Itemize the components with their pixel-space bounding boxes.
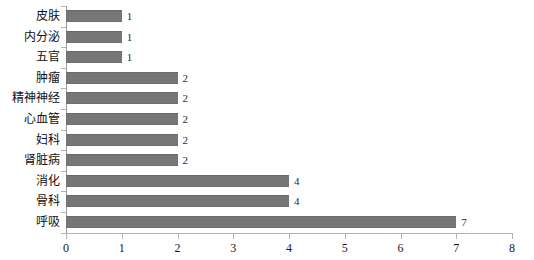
bar-value-label: 1 — [127, 28, 133, 46]
category-label: 心血管 — [0, 109, 60, 130]
bar-value-label: 2 — [183, 89, 189, 107]
bar-value-label: 4 — [294, 192, 300, 210]
category-label: 肾脏病 — [0, 150, 60, 171]
bar-value-label: 7 — [461, 213, 467, 231]
bar-row: 7 — [66, 212, 512, 233]
x-axis-tick — [178, 234, 179, 239]
bar-value-label: 2 — [183, 151, 189, 169]
bar-value-label: 2 — [183, 131, 189, 149]
bar — [66, 31, 122, 43]
bar — [66, 195, 289, 207]
bar-value-label: 1 — [127, 7, 133, 25]
bar — [66, 175, 289, 187]
bar-row: 2 — [66, 68, 512, 89]
category-label: 皮肤 — [0, 6, 60, 27]
x-axis-tick-label: 6 — [386, 241, 416, 256]
y-axis-tick — [61, 68, 66, 69]
x-axis-tick-label: 2 — [163, 241, 193, 256]
bar-row: 2 — [66, 130, 512, 151]
x-axis-tick — [345, 234, 346, 239]
y-axis-tick — [61, 6, 66, 7]
x-axis-tick — [289, 234, 290, 239]
y-axis-tick — [61, 109, 66, 110]
bar-value-label: 2 — [183, 110, 189, 128]
x-axis-tick-label: 7 — [441, 241, 471, 256]
bar — [66, 154, 178, 166]
x-axis-tick-label: 0 — [51, 241, 81, 256]
category-label: 骨科 — [0, 191, 60, 212]
bar-row: 1 — [66, 6, 512, 27]
x-axis-tick-label: 5 — [330, 241, 360, 256]
bar-row: 1 — [66, 27, 512, 48]
bar — [66, 51, 122, 63]
bar-row: 4 — [66, 171, 512, 192]
category-label: 呼吸 — [0, 212, 60, 233]
category-label: 精神神经 — [0, 88, 60, 109]
x-axis-tick-label: 3 — [218, 241, 248, 256]
bar-chart: 11122222447 皮肤内分泌五官肿瘤精神神经心血管妇科肾脏病消化骨科呼吸 … — [0, 0, 534, 260]
bar-row: 2 — [66, 150, 512, 171]
x-axis-tick — [401, 234, 402, 239]
bar-row: 2 — [66, 88, 512, 109]
category-label: 五官 — [0, 47, 60, 68]
bar-value-label: 1 — [127, 48, 133, 66]
x-axis-tick-label: 4 — [274, 241, 304, 256]
y-axis-tick — [61, 212, 66, 213]
y-axis-tick — [61, 171, 66, 172]
x-axis-tick — [66, 234, 67, 239]
y-axis-tick — [61, 130, 66, 131]
bar-row: 4 — [66, 191, 512, 212]
category-label: 妇科 — [0, 130, 60, 151]
bar — [66, 134, 178, 146]
bar — [66, 216, 456, 228]
y-axis-tick — [61, 191, 66, 192]
x-axis-tick-label: 8 — [497, 241, 527, 256]
y-axis-tick — [61, 88, 66, 89]
bar-value-label: 4 — [294, 172, 300, 190]
bar-row: 2 — [66, 109, 512, 130]
bar — [66, 92, 178, 104]
x-axis-tick — [456, 234, 457, 239]
x-axis-tick — [233, 234, 234, 239]
bar — [66, 113, 178, 125]
y-axis-tick — [61, 47, 66, 48]
bar — [66, 10, 122, 22]
y-axis-tick — [61, 27, 66, 28]
bar-row: 1 — [66, 47, 512, 68]
bar-value-label: 2 — [183, 69, 189, 87]
plot-area: 11122222447 — [66, 6, 512, 233]
x-axis-tick-label: 1 — [107, 241, 137, 256]
bar — [66, 72, 178, 84]
category-label: 肿瘤 — [0, 68, 60, 89]
category-label: 消化 — [0, 171, 60, 192]
x-axis-tick — [122, 234, 123, 239]
category-label: 内分泌 — [0, 27, 60, 48]
x-axis-tick — [512, 234, 513, 239]
y-axis-tick — [61, 150, 66, 151]
